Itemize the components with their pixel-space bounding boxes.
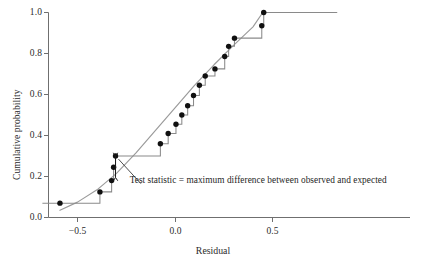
data-point-marker [232,35,237,40]
plot-canvas [0,0,426,264]
data-point-marker [226,44,231,49]
data-point-marker [212,66,217,71]
y-tick-label: 0.8 [18,48,42,58]
y-axis-title: Cumulative probability [12,89,22,180]
data-point-marker [222,54,227,59]
x-tick-label: −0.5 [60,226,96,236]
y-tick-label: 0.0 [18,212,42,222]
data-point-marker [185,103,190,108]
data-point-marker [173,122,178,127]
y-tick-label: 1.0 [18,7,42,17]
data-point-marker [259,23,264,28]
data-point-marker [191,93,196,98]
data-point-marker [179,112,184,117]
data-point-marker [57,200,62,205]
chart-figure: 1.00.80.60.40.20.0 −0.50.00.5 Cumulative… [0,0,426,264]
x-tick-label: 0.5 [255,226,291,236]
data-point-marker [158,141,163,146]
data-point-marker [197,83,202,88]
x-tick-label: 0.0 [158,226,194,236]
y-tick-marks [44,13,49,218]
axes-group [49,13,411,218]
data-point-marker [261,10,266,15]
data-point-marker [165,131,170,136]
x-axis-title: Residual [0,245,426,256]
x-tick-marks [78,218,273,223]
test-statistic-annotation-text: Test statistic = maximum difference betw… [130,175,387,185]
data-point-marker [203,73,208,78]
data-point-marker [97,189,102,194]
